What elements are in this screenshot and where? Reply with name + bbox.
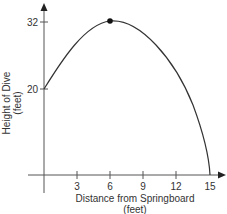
x-axis-label: Distance from Springboard	[76, 193, 195, 204]
dive-curve	[44, 21, 210, 175]
x-tick-label-9: 9	[140, 181, 146, 192]
x-axis-unit: (feet)	[123, 204, 146, 214]
y-axis-label: Height of Dive	[1, 71, 12, 134]
x-tick-label-12: 12	[170, 181, 182, 192]
y-tick-label-20: 20	[27, 84, 39, 95]
x-tick-label-15: 15	[204, 181, 216, 192]
y-axis-arrow-icon	[41, 3, 48, 11]
vertex-point	[107, 18, 113, 24]
x-axis-arrow-icon	[218, 172, 226, 179]
dive-chart: 32 20 3 6 9 12 15 Distance from Springbo…	[0, 0, 227, 214]
x-tick-label-6: 6	[107, 181, 113, 192]
y-axis-unit: (feet)	[12, 91, 23, 114]
x-tick-label-3: 3	[74, 181, 80, 192]
y-tick-label-32: 32	[27, 17, 39, 28]
